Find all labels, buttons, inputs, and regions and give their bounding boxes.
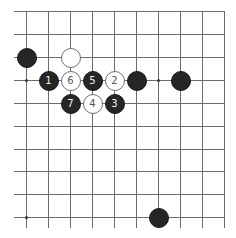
move-number: 6 [67,76,73,86]
move-number: 2 [111,76,117,86]
grid-line-vertical [180,11,181,228]
grid-line-horizontal [14,149,225,150]
grid-line-horizontal [14,171,225,172]
grid-line-vertical [114,11,115,228]
grid-line-vertical [92,11,93,228]
black-stone [171,71,191,91]
star-point [25,79,28,82]
board-edge-right [224,11,225,228]
grid-line-horizontal [14,194,225,195]
black-stone [127,71,147,91]
move-number: 7 [67,99,73,109]
black-stone-move-5: 5 [83,71,103,91]
grid-line-vertical [158,11,159,228]
move-number: 4 [89,99,95,109]
white-stone-move-4: 4 [83,94,103,114]
move-number: 3 [111,99,117,109]
grid-line-horizontal [14,57,225,58]
grid-line-horizontal [14,11,225,12]
white-stone-move-6: 6 [61,71,81,91]
grid-line-vertical [26,11,27,228]
go-board: 1652743 [0,0,236,238]
move-number: 1 [45,76,51,86]
grid-line-vertical [70,11,71,228]
grid-line-vertical [136,11,137,228]
black-stone-move-3: 3 [105,94,125,114]
move-number: 5 [89,76,95,86]
black-stone-move-1: 1 [39,71,59,91]
white-stone-move-2: 2 [105,71,125,91]
black-stone-move-7: 7 [61,94,81,114]
black-stone [17,48,37,68]
white-stone [61,48,81,68]
star-point [157,79,160,82]
black-stone [149,208,169,228]
grid-line-horizontal [14,34,225,35]
grid-line-horizontal [14,217,225,218]
star-point [25,216,28,219]
grid-line-horizontal [14,126,225,127]
grid-line-vertical [48,11,49,228]
grid-line-vertical [202,11,203,228]
